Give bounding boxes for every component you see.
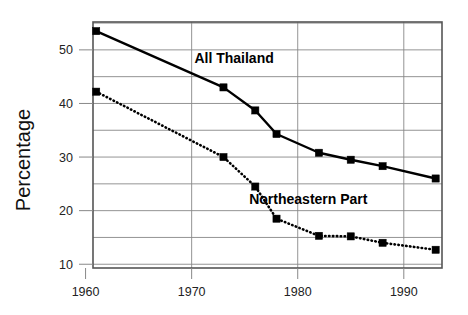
data-point-marker: [93, 28, 100, 35]
data-point-marker: [347, 156, 354, 163]
y-axis-title: Percentage: [12, 109, 34, 211]
y-tick-label: 40: [59, 97, 73, 111]
x-tick-label: 1960: [72, 285, 100, 299]
x-tick-label: 1980: [284, 285, 312, 299]
data-point-marker: [315, 232, 322, 239]
x-tick-label: 1970: [178, 285, 206, 299]
chart-figure: 1020304050 1960197019801990 All Thailand…: [0, 0, 468, 315]
y-tick-label: 50: [59, 43, 73, 57]
data-point-marker: [273, 215, 280, 222]
y-tick-label: 30: [59, 151, 73, 165]
data-point-marker: [93, 88, 100, 95]
x-tick-label: 1990: [390, 285, 418, 299]
data-point-marker: [252, 107, 259, 114]
data-point-marker: [252, 183, 259, 190]
y-tick-label: 10: [59, 258, 73, 272]
series-label-2: Northeastern Part: [249, 191, 368, 207]
data-point-marker: [315, 149, 322, 156]
data-point-marker: [379, 239, 386, 246]
data-point-marker: [220, 84, 227, 91]
data-point-marker: [432, 175, 439, 182]
data-point-marker: [379, 163, 386, 170]
data-point-marker: [432, 246, 439, 253]
y-tick-label: 20: [59, 204, 73, 218]
data-point-marker: [273, 130, 280, 137]
chart-canvas: 1020304050 1960197019801990 All Thailand…: [0, 0, 468, 315]
data-point-marker: [347, 233, 354, 240]
data-point-marker: [220, 153, 227, 160]
series-label-1: All Thailand: [194, 50, 273, 66]
